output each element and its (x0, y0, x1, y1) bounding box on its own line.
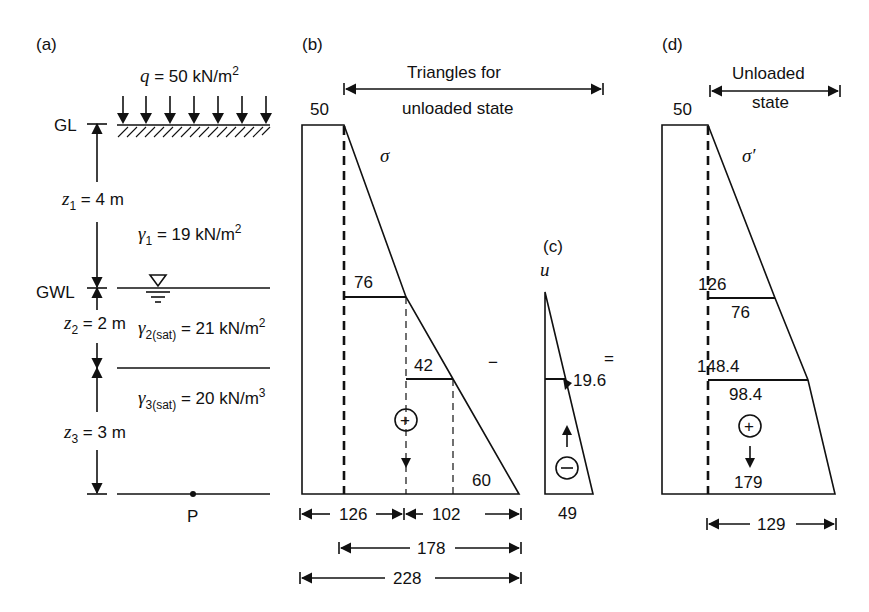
down-arrow-icon (401, 458, 411, 468)
sigma-eff-126: 126 (698, 275, 726, 294)
sigma-value-42: 42 (414, 356, 433, 375)
dim-129: 129 (757, 515, 785, 534)
panel-d-header-line1: Unloaded (732, 64, 805, 83)
surcharge-label: q = 50 kN/m2 (140, 64, 239, 86)
panel-d-label: (d) (662, 35, 683, 54)
sigma-symbol: σ (380, 145, 390, 166)
panel-a-label: (a) (36, 35, 57, 54)
panel-d-effective-stress: (d) Unloaded state 50 σ′ 126 76 148.4 98… (662, 35, 840, 534)
plus-sign: + (400, 411, 410, 430)
point-p-marker (190, 491, 196, 497)
dim-178: 178 (417, 539, 445, 558)
z3-label: z3 = 3 m (63, 421, 126, 446)
down-arrow-icon-d (745, 458, 755, 468)
sigma-eff-76: 76 (731, 303, 750, 322)
panel-d-header-line2: state (752, 93, 789, 112)
dimension-lines-b: 126 102 178 228 (300, 505, 521, 588)
gamma2-label: γ2(sat) = 21 kN/m2 (138, 316, 266, 342)
panel-a-soil-profile: (a) q = 50 kN/m2 (36, 35, 272, 526)
dim-228: 228 (393, 569, 421, 588)
sigma-eff-top-value: 50 (673, 100, 692, 119)
dim-126: 126 (339, 505, 367, 524)
gwl-label: GWL (36, 283, 75, 302)
surcharge-arrows-icon (117, 96, 272, 124)
gl-label: GL (54, 116, 77, 135)
panel-b-header-line1: Triangles for (407, 63, 501, 82)
panel-b-header-line2: unloaded state (402, 99, 514, 118)
equals-operator: = (604, 349, 614, 368)
up-arrow-icon (562, 425, 572, 435)
gamma1-label: γ1 = 19 kN/m2 (138, 222, 242, 248)
sigma-eff-148-4: 148.4 (697, 357, 740, 376)
dim-102: 102 (432, 505, 460, 524)
stress-diagram: (a) q = 50 kN/m2 (0, 0, 869, 612)
pore-pressure-symbol: u (540, 259, 550, 280)
sigma-eff-symbol: σ′ (742, 145, 756, 166)
z2-label: z2 = 2 m (63, 312, 126, 337)
sigma-top-value: 50 (310, 100, 329, 119)
sigma-eff-179: 179 (734, 473, 762, 492)
point-p-label: P (187, 507, 198, 526)
sigma-value-76: 76 (354, 273, 373, 292)
u-value-49: 49 (558, 504, 577, 523)
plus-sign-d: + (744, 417, 754, 436)
sigma-eff-98-4: 98.4 (729, 385, 762, 404)
sigma-value-60: 60 (472, 471, 491, 490)
ground-surface (117, 125, 270, 137)
gamma3-label: γ3(sat) = 20 kN/m3 (138, 386, 266, 412)
minus-operator: − (488, 353, 498, 372)
u-value-19-6: 19.6 (573, 371, 606, 390)
panel-c-label: (c) (543, 237, 563, 256)
z1-label: z1 = 4 m (61, 188, 124, 213)
panel-b-label: (b) (302, 35, 323, 54)
panel-c-pore-pressure: (c) u 19.6 49 = (540, 237, 614, 523)
